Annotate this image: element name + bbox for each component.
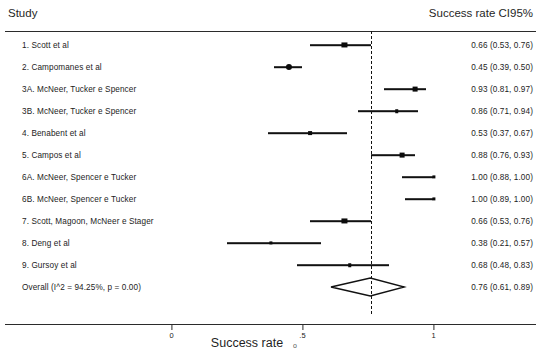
point-estimate-marker xyxy=(395,109,399,113)
row-estimate: 0.38 (0.21, 0.57) xyxy=(471,239,533,248)
row-label: 9. Gursoy et al xyxy=(22,261,77,270)
column-header-effect: Success rate CI95% xyxy=(429,7,533,19)
row-estimate: 0.86 (0.71, 0.94) xyxy=(471,107,533,116)
row-estimate: 0.45 (0.39, 0.50) xyxy=(471,63,533,72)
row-label: 3A. McNeer, Tucker e Spencer xyxy=(22,85,136,94)
row-label: 6B. McNeer, Spencer e Tucker xyxy=(22,195,136,204)
axis-tick-label: .5 xyxy=(299,331,305,340)
point-estimate-marker xyxy=(342,218,347,223)
row-label: 8. Deng et al xyxy=(22,239,70,248)
confidence-interval-line xyxy=(358,110,418,112)
row-label: 6A. McNeer, Spencer e Tucker xyxy=(22,173,136,182)
row-label: 1. Scott et al xyxy=(22,41,69,50)
confidence-interval-line xyxy=(310,44,370,46)
x-axis-title: Success rate xyxy=(211,336,283,350)
row-estimate: 0.66 (0.53, 0.76) xyxy=(471,41,533,50)
axis-tick-label: 1 xyxy=(431,331,435,340)
row-label: 2. Campomanes et al xyxy=(22,63,102,72)
point-estimate-marker xyxy=(286,64,292,70)
confidence-interval-line xyxy=(405,198,434,200)
point-estimate-marker xyxy=(348,263,352,267)
row-estimate: 0.88 (0.76, 0.93) xyxy=(471,151,533,160)
point-estimate-marker xyxy=(413,87,418,92)
row-label: 7. Scott, Magoon, McNeer e Stager xyxy=(22,217,154,226)
point-estimate-marker xyxy=(432,197,435,200)
column-header-study: Study xyxy=(8,7,37,19)
overall-diamond xyxy=(331,278,404,296)
axis-tick xyxy=(433,325,434,330)
confidence-interval-line xyxy=(371,154,416,156)
x-axis-line xyxy=(5,324,536,325)
row-label: 3B. McNeer, Tucker e Spencer xyxy=(22,107,136,116)
point-estimate-marker xyxy=(269,241,272,244)
point-estimate-marker xyxy=(308,131,312,135)
confidence-interval-line xyxy=(310,220,370,222)
row-estimate: 0.53 (0.37, 0.67) xyxy=(471,129,533,138)
row-estimate-overall: 0.76 (0.61, 0.89) xyxy=(471,283,533,292)
forest-plot: Study Success rate CI95% 1. Scott et al0… xyxy=(0,0,541,364)
axis-tick xyxy=(171,325,172,330)
row-estimate: 0.66 (0.53, 0.76) xyxy=(471,217,533,226)
row-estimate: 0.68 (0.48, 0.83) xyxy=(471,261,533,270)
confidence-interval-line xyxy=(384,88,426,90)
point-estimate-marker xyxy=(432,175,435,178)
axis-tick xyxy=(302,325,303,330)
row-estimate: 1.00 (0.88, 1.00) xyxy=(471,173,533,182)
confidence-interval-line xyxy=(227,242,321,244)
row-label: 5. Campos et al xyxy=(22,151,81,160)
confidence-interval-line xyxy=(402,176,433,178)
confidence-interval-line xyxy=(297,264,389,266)
row-estimate: 1.00 (0.89, 1.00) xyxy=(471,195,533,204)
axis-tick-label: 0 xyxy=(169,331,173,340)
row-label-overall: Overall (I^2 = 94.25%, p = 0.00) xyxy=(22,283,141,292)
reference-line xyxy=(371,31,372,314)
header-rule xyxy=(5,31,536,32)
row-estimate: 0.93 (0.81, 0.97) xyxy=(471,85,533,94)
point-estimate-marker xyxy=(342,42,347,47)
row-label: 4. Benabent et al xyxy=(22,129,86,138)
stray-artifact-glyph: o xyxy=(293,342,297,349)
point-estimate-marker xyxy=(400,153,405,158)
